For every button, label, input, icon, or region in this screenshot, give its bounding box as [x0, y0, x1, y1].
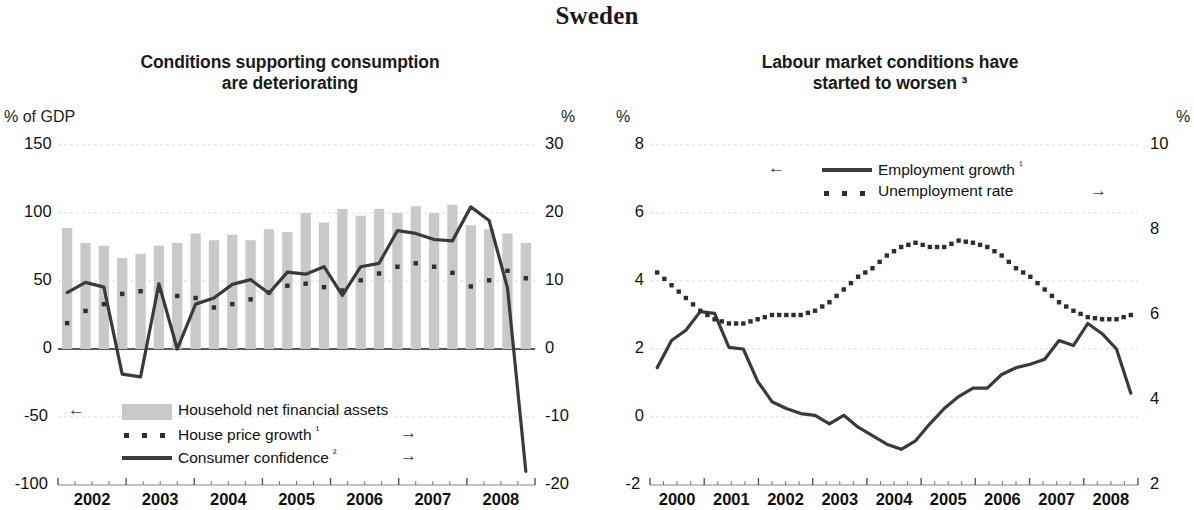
legend-footnote-marker: ¹ [1019, 159, 1023, 171]
legend-label: Household net financial assets [178, 401, 388, 419]
legend-dotted-line-swatch [124, 433, 170, 437]
x-axis-tick: 2006 [972, 490, 1032, 509]
dotted-line-series [65, 261, 528, 325]
y-axis-tick-right: 8 [1150, 219, 1159, 238]
y-axis-tick-right: -10 [545, 406, 569, 425]
y-axis-tick-left: -100 [15, 474, 48, 493]
right-arrow-icon: → [400, 423, 417, 443]
y-axis-tick-left: -2 [625, 474, 640, 493]
y-axis-tick-right: 0 [545, 338, 554, 357]
y-axis-tick-right: 10 [1150, 134, 1168, 153]
legend-label: Employment growth ¹ [878, 159, 1023, 179]
y-axis-tick-right: 30 [545, 134, 563, 153]
y-axis-tick-left: 0 [43, 338, 52, 357]
x-axis-tick: 2004 [198, 490, 258, 509]
legend-solid-line-swatch [822, 168, 872, 172]
legend-label: House price growth ¹ [178, 424, 319, 444]
left-arrow-icon: ← [768, 158, 785, 178]
legend-dot [142, 433, 147, 438]
y-axis-tick-left: 2 [635, 338, 644, 357]
x-axis-tick: 2008 [1081, 490, 1141, 509]
y-axis-tick-left: 8 [635, 134, 644, 153]
x-axis-tick: 2005 [267, 490, 327, 509]
legend-dot [860, 191, 865, 196]
x-axis-tick: 2002 [756, 490, 816, 509]
x-axis-tick: 2003 [810, 490, 870, 509]
x-axis-tick: 2001 [701, 490, 761, 509]
x-axis-tick: 2006 [335, 490, 395, 509]
y-axis-tick-left: 50 [33, 270, 51, 289]
x-axis-tick: 2007 [1027, 490, 1087, 509]
x-axis-tick: 2002 [62, 490, 122, 509]
y-axis-tick-right: 6 [1150, 304, 1159, 323]
legend-footnote-marker: ² [333, 447, 337, 459]
x-axis-tick: 2000 [647, 490, 707, 509]
left-arrow-icon: ← [68, 400, 85, 420]
right-chart-plot [600, 0, 1194, 510]
legend-label: Unemployment rate [878, 182, 1013, 200]
dotted-line-series [655, 238, 1133, 325]
right-arrow-icon: → [1090, 181, 1107, 201]
legend-dot [842, 191, 847, 196]
legend-dotted-line-swatch [824, 191, 870, 195]
x-axis-tick: 2004 [864, 490, 924, 509]
y-axis-tick-left: -50 [24, 406, 48, 425]
y-axis-tick-right: 4 [1150, 389, 1159, 408]
y-axis-tick-right: 20 [545, 202, 563, 221]
legend-solid-line-swatch [122, 456, 172, 460]
y-axis-tick-left: 0 [635, 406, 644, 425]
left-chart-panel: Conditions supporting consumption are de… [0, 0, 600, 510]
x-axis-tick: 2003 [130, 490, 190, 509]
y-axis-tick-left: 100 [24, 202, 52, 221]
right-arrow-icon: → [400, 446, 417, 466]
solid-line-series [657, 312, 1131, 450]
legend-dot [124, 433, 129, 438]
x-axis-tick: 2008 [471, 490, 531, 509]
legend-bar-swatch [122, 404, 172, 420]
legend-footnote-marker: ¹ [316, 424, 320, 436]
legend-label: Consumer confidence ² [178, 447, 337, 467]
x-axis-tick: 2005 [918, 490, 978, 509]
y-axis-tick-left: 4 [635, 270, 644, 289]
y-axis-tick-left: 6 [635, 202, 644, 221]
y-axis-tick-left: 150 [24, 134, 52, 153]
right-chart-panel: Labour market conditions have started to… [600, 0, 1194, 510]
legend-dot [824, 191, 829, 196]
y-axis-tick-right: -20 [545, 474, 569, 493]
y-axis-tick-right: 10 [545, 270, 563, 289]
y-axis-tick-right: 2 [1150, 474, 1159, 493]
legend-dot [160, 433, 165, 438]
chart-page: Sweden Conditions supporting consumption… [0, 0, 1194, 510]
x-axis-tick: 2007 [403, 490, 463, 509]
